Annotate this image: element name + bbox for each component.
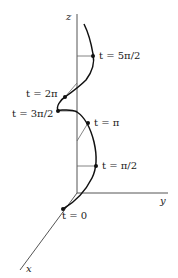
- point-t-5pi-2: [91, 54, 95, 58]
- point-t-2pi: [63, 95, 67, 99]
- label-t-pi-2: t = π/2: [102, 161, 137, 171]
- label-t0: t = 0: [62, 211, 87, 221]
- point-t-pi-2: [94, 164, 98, 168]
- y-axis-label: y: [160, 196, 166, 206]
- tick-pi: [77, 123, 88, 141]
- helix-diagram: [0, 0, 178, 278]
- label-t-3pi-2: t = 3π/2: [12, 109, 53, 119]
- label-t-2pi: t = 2π: [26, 89, 58, 99]
- x-axis: [20, 193, 77, 270]
- label-t-5pi-2: t = 5π/2: [99, 51, 140, 61]
- z-axis-label: z: [66, 12, 71, 22]
- point-t-pi: [86, 121, 90, 125]
- x-axis-label: x: [26, 264, 32, 274]
- point-t-3pi-2: [56, 109, 60, 113]
- label-t-pi: t = π: [94, 118, 119, 128]
